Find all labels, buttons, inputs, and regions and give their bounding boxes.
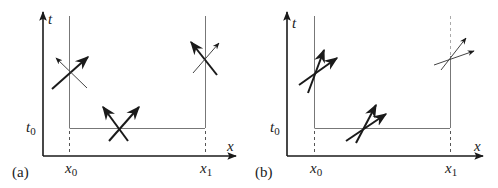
- characteristics-x1: [434, 38, 474, 70]
- panel-a: t x t0 x0 x1 (a): [12, 11, 236, 181]
- t-axis-label: t: [292, 15, 297, 31]
- t0-label: t0: [26, 119, 36, 137]
- characteristics-t0: [103, 107, 139, 141]
- x1-label: x1: [199, 160, 212, 178]
- arrow-icon: [299, 58, 337, 85]
- t0-label: t0: [270, 119, 280, 137]
- x0-label: x0: [309, 160, 323, 178]
- diagram-canvas: t x t0 x0 x1 (a) t x t0 x0 x1 (: [0, 0, 498, 188]
- x1-label: x1: [444, 160, 457, 178]
- x-axis-label: x: [473, 138, 481, 154]
- figure: t x t0 x0 x1 (a) t x t0 x0 x1 (: [0, 0, 498, 188]
- arrow-icon: [308, 50, 324, 93]
- characteristics-x0: [299, 50, 337, 93]
- t-axis-label: t: [48, 11, 53, 27]
- panel-b-label: (b): [255, 164, 273, 181]
- x-axis-label: x: [226, 138, 234, 154]
- characteristics-t0: [346, 105, 386, 143]
- panel-a-label: (a): [12, 164, 29, 181]
- arrow-icon: [441, 38, 466, 70]
- x0-label: x0: [64, 160, 78, 178]
- arrow-icon: [346, 114, 386, 141]
- arrow-icon: [356, 105, 376, 143]
- panel-b: t x t0 x0 x1 (b): [255, 12, 483, 181]
